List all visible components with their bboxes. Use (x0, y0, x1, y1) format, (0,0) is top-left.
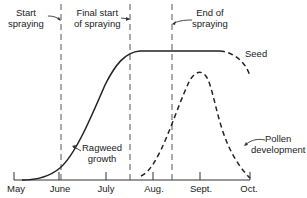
tick-label-june: June (50, 183, 71, 194)
tick-label-sept: Sept. (190, 183, 212, 194)
label-text: End of (192, 7, 228, 18)
label-text: Final start (74, 7, 120, 18)
annotation-arrows (48, 16, 265, 151)
label-text: spraying (192, 18, 228, 29)
label-final-start-spraying: Final start of spraying (74, 7, 120, 29)
chart-canvas (0, 0, 307, 198)
label-text: of spraying (74, 18, 120, 29)
x-axis-ticks (14, 172, 250, 180)
tick-label-may: May (7, 183, 25, 194)
label-text: growth (82, 153, 122, 164)
label-text: development (251, 144, 305, 155)
label-text: Ragweed (82, 142, 122, 153)
pollen-development-curve (141, 72, 250, 178)
label-end-spraying: End of spraying (192, 7, 228, 29)
end-arrow (173, 20, 192, 24)
label-start-spraying: Start spraying (8, 7, 44, 29)
label-pollen-development: Pollen development (251, 133, 305, 155)
label-seed: Seed (245, 48, 267, 59)
tick-label-aug: Aug. (144, 183, 164, 194)
tick-label-oct: Oct. (240, 183, 257, 194)
label-text: Pollen (251, 133, 305, 144)
label-text: spraying (8, 18, 44, 29)
tick-label-july: July (98, 183, 115, 194)
label-text: Start (8, 7, 44, 18)
label-ragweed-growth: Ragweed growth (82, 142, 122, 164)
